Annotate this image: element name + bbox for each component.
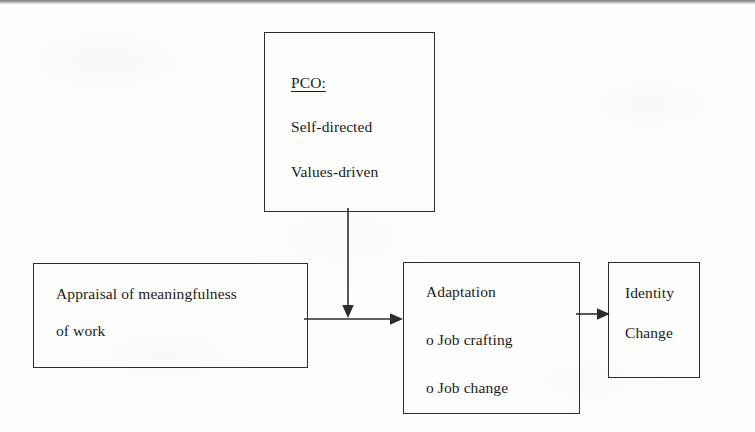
pco-box[interactable]: PCO: Self-directed Values-driven xyxy=(264,32,435,212)
adaptation-item-job-crafting: o Job crafting xyxy=(426,332,513,348)
identity-line-2: Change xyxy=(625,325,673,341)
arrow-adaptation-to-identity xyxy=(576,303,614,325)
adaptation-heading: Adaptation xyxy=(426,284,496,300)
appraisal-line-2: of work xyxy=(56,323,105,339)
identity-box[interactable]: Identity Change xyxy=(608,262,700,378)
pco-attribute-values-driven: Values-driven xyxy=(291,164,378,180)
appraisal-line-1: Appraisal of meaningfulness xyxy=(56,286,237,302)
pco-attribute-self-directed: Self-directed xyxy=(291,119,372,135)
arrow-pco-to-flow xyxy=(336,208,362,324)
diagram-canvas: PCO: Self-directed Values-driven Apprais… xyxy=(0,0,755,432)
adaptation-item-job-change: o Job change xyxy=(426,380,508,396)
arrow-appraisal-to-adaptation xyxy=(304,308,410,330)
adaptation-box[interactable]: Adaptation o Job crafting o Job change xyxy=(403,262,580,414)
pco-heading: PCO: xyxy=(291,75,326,91)
scan-edge-artifact xyxy=(0,0,755,5)
identity-line-1: Identity xyxy=(625,285,674,301)
appraisal-box[interactable]: Appraisal of meaningfulness of work xyxy=(33,263,308,368)
